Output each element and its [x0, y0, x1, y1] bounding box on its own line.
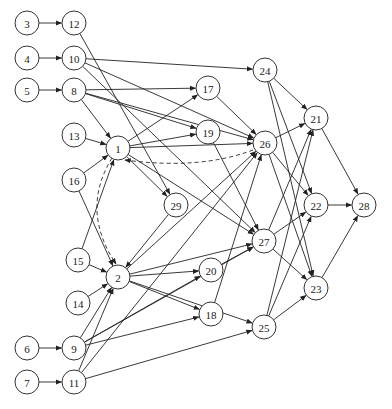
node-label: 11: [69, 377, 80, 389]
node-label: 8: [71, 85, 77, 97]
dashed-edge-26-to-1: [125, 150, 253, 163]
edge-16-to-1: [84, 155, 108, 173]
node-label: 24: [260, 65, 272, 77]
node-label: 10: [69, 53, 81, 65]
edge-25-to-23: [274, 296, 306, 320]
node-label: 5: [24, 85, 30, 97]
edge-14-to-2: [88, 284, 107, 297]
edge-2-to-25: [129, 281, 252, 323]
node-12: 12: [62, 11, 86, 35]
node-11: 11: [62, 370, 86, 394]
node-17: 17: [196, 76, 220, 100]
edge-8-to-19: [85, 94, 196, 129]
edge-1-to-27: [128, 154, 253, 234]
node-label: 17: [203, 83, 215, 95]
node-22: 22: [304, 193, 328, 217]
node-label: 28: [359, 200, 371, 212]
edge-20-to-27: [222, 247, 254, 264]
edge-29-to-2: [126, 214, 169, 267]
node-label: 21: [311, 113, 322, 125]
node-label: 4: [24, 53, 30, 65]
edge-21-to-28: [322, 129, 358, 195]
node-19: 19: [196, 120, 220, 144]
edge-24-to-21: [274, 78, 307, 109]
node-29: 29: [164, 193, 188, 217]
node-23: 23: [304, 276, 328, 300]
node-label: 15: [73, 255, 85, 267]
edge-23-to-28: [322, 216, 358, 278]
node-10: 10: [62, 46, 86, 70]
node-label: 27: [259, 236, 271, 248]
node-9: 9: [62, 336, 86, 360]
node-3: 3: [15, 11, 39, 35]
node-2: 2: [106, 265, 130, 289]
node-15: 15: [66, 248, 90, 272]
edge-1-to-26: [130, 143, 253, 147]
edge-25-to-22: [269, 216, 311, 315]
node-24: 24: [253, 58, 277, 82]
nodes-layer: 3124105813116291521469711171924262120271…: [15, 11, 376, 394]
edge-2-to-26: [127, 151, 256, 268]
edge-26-to-23: [269, 154, 312, 276]
edge-10-to-24: [86, 59, 253, 69]
node-label: 23: [311, 283, 323, 295]
node-7: 7: [15, 370, 39, 394]
edge-27-to-23: [273, 249, 307, 280]
node-5: 5: [15, 78, 39, 102]
node-label: 22: [311, 200, 322, 212]
node-6: 6: [15, 336, 39, 360]
edge-26-to-21: [276, 124, 305, 138]
edge-15-to-1: [82, 160, 114, 249]
edge-17-to-26: [217, 96, 256, 134]
node-label: 6: [24, 343, 30, 355]
node-14: 14: [66, 291, 90, 315]
edge-8-to-17: [86, 88, 196, 90]
node-label: 3: [24, 18, 30, 30]
node-20: 20: [199, 258, 223, 282]
dashed-edge-1-to-2: [97, 158, 116, 264]
node-16: 16: [62, 168, 86, 192]
node-label: 29: [171, 200, 183, 212]
edge-9-to-18: [86, 317, 199, 345]
edge-2-to-18: [129, 281, 199, 309]
node-label: 19: [203, 127, 215, 139]
node-label: 25: [259, 322, 271, 334]
edge-15-to-2: [89, 265, 106, 272]
node-1: 1: [106, 136, 130, 160]
node-25: 25: [252, 315, 276, 339]
edge-11-to-26: [81, 153, 257, 373]
node-18: 18: [199, 302, 223, 326]
edge-11-to-25: [86, 330, 252, 378]
node-label: 14: [73, 298, 85, 310]
node-label: 13: [69, 130, 81, 142]
node-label: 7: [24, 377, 30, 389]
edge-26-to-22: [273, 152, 308, 195]
edge-1-to-17: [128, 95, 198, 141]
node-label: 26: [260, 138, 272, 150]
node-label: 18: [206, 309, 218, 321]
edge-13-to-1: [86, 138, 107, 144]
node-27: 27: [252, 229, 276, 253]
node-21: 21: [304, 106, 328, 130]
edge-12-to-29: [80, 33, 170, 194]
node-label: 20: [206, 265, 218, 277]
graph-svg: 3124105813116291521469711171924262120271…: [0, 0, 392, 409]
node-label: 1: [115, 143, 121, 155]
node-4: 4: [15, 46, 39, 70]
node-8: 8: [62, 78, 86, 102]
node-label: 2: [115, 272, 121, 284]
node-label: 12: [69, 18, 80, 30]
graph-diagram: 3124105813116291521469711171924262120271…: [0, 0, 392, 409]
node-28: 28: [352, 193, 376, 217]
edge-2-to-27: [130, 244, 252, 274]
node-13: 13: [62, 123, 86, 147]
node-label: 9: [71, 343, 77, 355]
node-label: 16: [69, 175, 81, 187]
node-26: 26: [253, 131, 277, 155]
